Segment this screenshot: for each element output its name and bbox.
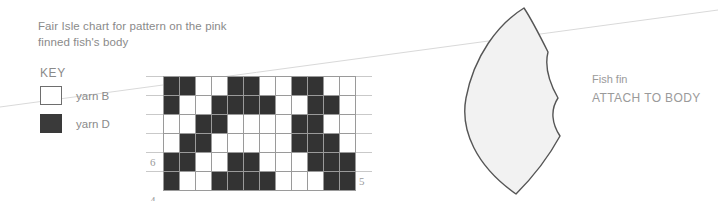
chart-cell <box>228 96 244 115</box>
row-number-label: 6 <box>150 156 156 168</box>
chart-cell <box>164 77 180 96</box>
chart-cell <box>228 77 244 96</box>
chart-cell <box>308 115 324 134</box>
pattern-page: Fair Isle chart for pattern on the pink … <box>0 0 718 201</box>
chart-cell <box>244 77 260 96</box>
chart-cell <box>340 134 356 153</box>
chart-cell <box>324 77 340 96</box>
chart-cell <box>244 115 260 134</box>
chart-cell <box>276 115 292 134</box>
chart-cell <box>340 153 356 172</box>
chart-cell <box>228 134 244 153</box>
row-number-label: 5 <box>359 175 365 187</box>
chart-cell <box>180 115 196 134</box>
chart-cell <box>276 77 292 96</box>
chart-cell <box>292 96 308 115</box>
chart-cell <box>292 115 308 134</box>
chart-cell <box>276 172 292 191</box>
chart-cell <box>292 153 308 172</box>
chart-cell <box>196 153 212 172</box>
chart-cell <box>180 153 196 172</box>
chart-cell <box>212 153 228 172</box>
fair-isle-chart <box>163 76 356 191</box>
chart-cell <box>340 77 356 96</box>
chart-cell <box>324 172 340 191</box>
yarn-b-swatch-icon <box>40 86 62 105</box>
chart-cell <box>260 115 276 134</box>
chart-cell <box>244 153 260 172</box>
key-item-yarn-d: yarn D <box>40 114 110 133</box>
chart-cell <box>308 153 324 172</box>
fish-fin-pattern-piece <box>452 2 592 201</box>
chart-cell <box>212 115 228 134</box>
chart-cell <box>196 77 212 96</box>
chart-title-line-1: Fair Isle chart for pattern on the pink <box>38 18 258 34</box>
chart-cell <box>324 153 340 172</box>
fin-piece-name: Fish fin <box>592 70 701 88</box>
key-item-label: yarn D <box>76 118 110 130</box>
chart-cell <box>308 172 324 191</box>
key-item-yarn-b: yarn B <box>40 86 110 105</box>
chart-cell <box>260 172 276 191</box>
chart-cell <box>324 96 340 115</box>
chart-cell <box>244 96 260 115</box>
chart-cell <box>196 115 212 134</box>
chart-cell <box>180 96 196 115</box>
chart-cell <box>292 134 308 153</box>
chart-cell <box>228 172 244 191</box>
chart-cell <box>164 134 180 153</box>
chart-cell <box>228 153 244 172</box>
key-legend: KEY yarn B yarn D <box>40 66 110 133</box>
chart-cell <box>164 96 180 115</box>
row-number-label: 4 <box>150 194 156 201</box>
fin-piece-instruction: ATTACH TO BODY <box>592 88 701 108</box>
chart-grid <box>163 76 356 191</box>
chart-cell <box>308 96 324 115</box>
chart-cell <box>244 134 260 153</box>
chart-cell <box>212 96 228 115</box>
key-item-label: yarn B <box>76 90 109 102</box>
chart-cell <box>164 172 180 191</box>
yarn-d-swatch-icon <box>40 114 62 133</box>
chart-cell <box>260 96 276 115</box>
chart-cell <box>340 172 356 191</box>
chart-cell <box>180 134 196 153</box>
chart-cell <box>196 172 212 191</box>
chart-cell <box>164 153 180 172</box>
chart-cell <box>340 96 356 115</box>
chart-cell <box>196 96 212 115</box>
chart-cell <box>260 153 276 172</box>
chart-cell <box>308 77 324 96</box>
chart-cell <box>276 96 292 115</box>
fin-outline <box>465 8 560 194</box>
chart-cell <box>340 115 356 134</box>
chart-cell <box>244 172 260 191</box>
chart-cell <box>324 134 340 153</box>
chart-title-line-2: finned fish's body <box>38 34 258 50</box>
chart-cell <box>180 77 196 96</box>
chart-cell <box>180 172 196 191</box>
chart-cell <box>196 134 212 153</box>
chart-cell <box>212 77 228 96</box>
key-heading: KEY <box>40 66 110 80</box>
fin-annotation: Fish fin ATTACH TO BODY <box>592 70 701 108</box>
chart-cell <box>260 77 276 96</box>
chart-cell <box>276 153 292 172</box>
chart-cell <box>292 77 308 96</box>
chart-cell <box>276 134 292 153</box>
chart-cell <box>212 134 228 153</box>
chart-cell <box>324 115 340 134</box>
chart-cell <box>228 115 244 134</box>
chart-cell <box>164 115 180 134</box>
chart-cell <box>212 172 228 191</box>
chart-cell <box>292 172 308 191</box>
chart-cell <box>308 134 324 153</box>
chart-cell <box>260 134 276 153</box>
chart-title: Fair Isle chart for pattern on the pink … <box>38 18 258 50</box>
